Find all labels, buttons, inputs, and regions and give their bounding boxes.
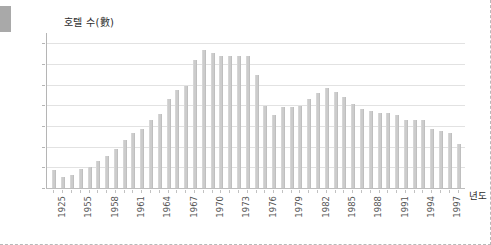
- x-axis-tick-label: 1988: [373, 196, 383, 218]
- x-axis-tick-label: 1985: [347, 196, 357, 218]
- bar: [202, 50, 206, 188]
- x-axis-tick-mark: [185, 190, 186, 193]
- bar: [131, 133, 135, 188]
- x-axis-tick-mark: [238, 190, 239, 193]
- bar: [61, 177, 65, 188]
- bar: [369, 111, 373, 189]
- x-axis-tick-mark: [176, 190, 177, 193]
- x-axis-tick-mark: [317, 190, 318, 193]
- y-axis-tick-mark: [42, 64, 45, 65]
- bar: [158, 114, 162, 188]
- x-axis-tick-mark: [256, 190, 257, 193]
- x-axis-tick-mark: [387, 190, 388, 193]
- bar: [448, 133, 452, 188]
- x-axis-tick-mark: [212, 190, 213, 193]
- x-axis-tick-label: 1958: [110, 196, 120, 218]
- bar: [255, 75, 259, 188]
- bar: [237, 56, 241, 188]
- bar: [149, 120, 153, 188]
- x-axis-tick-mark: [150, 190, 151, 193]
- x-axis-line: [46, 188, 465, 189]
- x-axis-tick-label: 1955: [83, 196, 93, 218]
- x-axis-tick-mark: [247, 190, 248, 193]
- bar: [175, 90, 179, 188]
- bar: [140, 129, 144, 188]
- x-axis-tick-label: 1994: [426, 196, 436, 218]
- x-axis-tick-mark: [370, 190, 371, 193]
- bar: [52, 170, 56, 188]
- y-axis-tick-mark: [42, 167, 45, 168]
- y-axis-tick-mark: [42, 85, 45, 86]
- x-axis-tick-mark: [449, 190, 450, 193]
- bar-series: [47, 33, 465, 188]
- x-axis-tick-mark: [326, 190, 327, 193]
- x-axis-tick-mark: [273, 190, 274, 193]
- x-axis-tick-mark: [71, 190, 72, 193]
- bar: [184, 86, 188, 188]
- bar: [457, 144, 461, 188]
- bar: [290, 107, 294, 188]
- x-axis-tick-label: 1970: [215, 196, 225, 218]
- bar: [334, 92, 338, 188]
- bar: [114, 149, 118, 188]
- x-axis-tick-mark: [229, 190, 230, 193]
- bar: [351, 104, 355, 188]
- grey-block-icon: [0, 6, 11, 32]
- x-axis-tick-labels: 1925195519581961196419671970197319761979…: [46, 190, 465, 242]
- y-axis-tick-mark: [42, 43, 45, 44]
- x-axis-tick-mark: [264, 190, 265, 193]
- bar: [88, 167, 92, 188]
- bar: [342, 97, 346, 188]
- x-axis-tick-mark: [132, 190, 133, 193]
- bar: [307, 99, 311, 188]
- x-axis-tick-mark: [62, 190, 63, 193]
- x-axis-tick-label: 1979: [294, 196, 304, 218]
- bar: [439, 131, 443, 188]
- x-axis-tick-mark: [291, 190, 292, 193]
- x-axis-tick-mark: [361, 190, 362, 193]
- bar: [79, 169, 83, 188]
- x-axis-tick-mark: [115, 190, 116, 193]
- x-axis-tick-mark: [440, 190, 441, 193]
- bar: [298, 106, 302, 188]
- bar: [281, 107, 285, 188]
- bar: [263, 106, 267, 188]
- x-axis-tick-mark: [414, 190, 415, 193]
- x-axis-tick-label: 1991: [400, 196, 410, 218]
- bar: [167, 99, 171, 188]
- x-axis-tick-mark: [431, 190, 432, 193]
- x-axis-tick-label: 1982: [321, 196, 331, 218]
- y-axis-tick-mark: [42, 188, 45, 189]
- bar: [378, 113, 382, 188]
- bar: [386, 113, 390, 188]
- x-axis-tick-mark: [203, 190, 204, 193]
- x-axis-tick-mark: [53, 190, 54, 193]
- bar: [219, 56, 223, 188]
- x-axis-tick-mark: [159, 190, 160, 193]
- x-axis-tick-mark: [220, 190, 221, 193]
- x-axis-tick-label: 1997: [452, 196, 462, 218]
- bar: [395, 115, 399, 188]
- x-axis-tick-mark: [299, 190, 300, 193]
- y-axis-tick-mark: [42, 126, 45, 127]
- bar: [272, 115, 276, 188]
- bar: [360, 109, 364, 188]
- x-axis-tick-mark: [422, 190, 423, 193]
- bar: [96, 161, 100, 188]
- x-axis-tick-mark: [308, 190, 309, 193]
- x-axis-tick-mark: [335, 190, 336, 193]
- x-axis-tick-mark: [282, 190, 283, 193]
- bar: [404, 120, 408, 188]
- x-axis-tick-mark: [458, 190, 459, 193]
- bar: [123, 140, 127, 188]
- plot-area: [46, 33, 465, 188]
- x-axis-tick-label: 1961: [136, 196, 146, 218]
- bar: [211, 53, 215, 188]
- bar: [193, 60, 197, 188]
- x-axis-tick-label: 1976: [268, 196, 278, 218]
- y-axis-tick-mark: [42, 105, 45, 106]
- x-axis-tick-mark: [405, 190, 406, 193]
- x-axis-tick-mark: [379, 190, 380, 193]
- bar: [430, 129, 434, 188]
- x-axis-tick-mark: [343, 190, 344, 193]
